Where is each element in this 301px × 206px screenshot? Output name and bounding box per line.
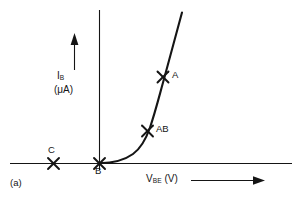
label-point-a: A — [172, 70, 178, 80]
x-axis-units: (V) — [164, 173, 177, 184]
y-axis-title-subscript: B — [60, 74, 65, 81]
x-axis-title-subscript: BE — [153, 177, 162, 184]
y-axis-arrow-icon — [71, 33, 79, 70]
figure-container: IB (μA) VBE (V) A AB B C (a) — [0, 0, 301, 206]
x-axis-title-text: V — [146, 173, 153, 184]
label-point-c: C — [48, 145, 55, 155]
figure-caption: (a) — [10, 178, 22, 188]
y-axis-title: IB — [57, 71, 64, 82]
label-point-b: B — [95, 166, 101, 176]
y-axis-units: (μA) — [54, 85, 73, 95]
label-point-ab: AB — [156, 124, 169, 134]
diode-characteristic-curve — [100, 13, 183, 164]
x-axis-title: VBE (V) — [146, 174, 178, 185]
x-axis-arrow-icon — [191, 176, 265, 185]
